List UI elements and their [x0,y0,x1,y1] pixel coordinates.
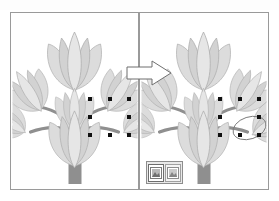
handle-s[interactable] [238,133,242,137]
handle-n[interactable] [238,97,242,101]
arrow-right-icon [127,61,171,85]
handle-nw[interactable] [218,97,222,101]
handle-w[interactable] [218,115,222,119]
handle-e[interactable] [257,115,261,119]
handle-ne[interactable] [257,97,261,101]
handle-sw[interactable] [218,133,222,137]
figure-root [0,0,279,201]
after-selection-handles[interactable] [0,0,279,201]
transition-arrow [126,60,172,86]
paste-option-picture-button[interactable] [165,164,181,182]
handle-se[interactable] [257,133,261,137]
picture-icon [150,167,162,179]
paste-options-popup[interactable] [146,161,183,184]
picture-icon [167,167,179,179]
paste-option-keep-source-formatting-button[interactable] [148,164,164,182]
